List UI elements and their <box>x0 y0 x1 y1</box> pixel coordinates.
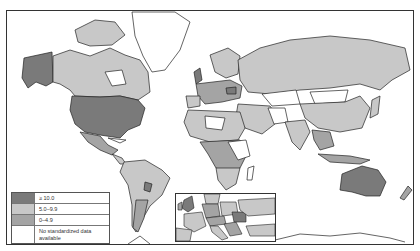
legend-item-high: ≥ 10.0 <box>12 193 109 204</box>
legend-label: 5.0–9.9 <box>35 204 57 214</box>
region-arctic-islands <box>75 20 125 46</box>
inset-romania <box>232 212 246 222</box>
legend-swatch <box>12 226 35 243</box>
region-indonesia <box>318 154 370 164</box>
inset-france <box>184 212 206 232</box>
legend: ≥ 10.0 5.0–9.9 0–4.9 No standardized dat… <box>11 192 110 244</box>
legend-label: 0–4.9 <box>35 215 53 225</box>
inset-iberia <box>176 228 192 241</box>
inset-scandinavia <box>204 194 220 204</box>
region-se-asia <box>312 130 334 150</box>
inset-germany <box>202 204 220 218</box>
region-madagascar <box>247 166 254 180</box>
legend-item-mid: 5.0–9.9 <box>12 204 109 215</box>
europe-inset-map <box>175 193 276 242</box>
region-iberia <box>186 96 200 108</box>
region-japan <box>370 96 380 118</box>
region-south-america <box>120 160 170 232</box>
legend-item-none: No standardized data available <box>12 226 109 243</box>
inset-turkey <box>246 224 275 236</box>
region-argentina <box>133 200 148 232</box>
region-romania <box>226 87 236 94</box>
region-cuba <box>108 138 126 143</box>
legend-item-low: 0–4.9 <box>12 215 109 226</box>
legend-label: ≥ 10.0 <box>35 193 54 203</box>
region-canada <box>53 48 150 100</box>
region-new-zealand <box>400 186 412 200</box>
region-southern-africa <box>216 168 240 190</box>
inset-ireland <box>178 202 182 210</box>
inset-balkans <box>224 222 242 236</box>
europe-inset-svg <box>176 194 275 241</box>
legend-swatch <box>12 215 35 225</box>
legend-label: No standardized data available <box>35 226 109 243</box>
region-uk <box>194 68 202 84</box>
legend-swatch <box>12 204 35 214</box>
region-russia <box>238 36 410 94</box>
region-scandinavia <box>210 48 240 78</box>
inset-central <box>206 216 226 226</box>
region-india <box>285 120 310 150</box>
inset-italy <box>210 226 228 240</box>
region-usa <box>70 96 145 138</box>
legend-swatch <box>12 193 35 203</box>
region-sahara-gap <box>205 116 225 130</box>
region-australia <box>340 166 386 196</box>
region-alaska <box>22 52 53 88</box>
inset-uk <box>182 196 194 212</box>
